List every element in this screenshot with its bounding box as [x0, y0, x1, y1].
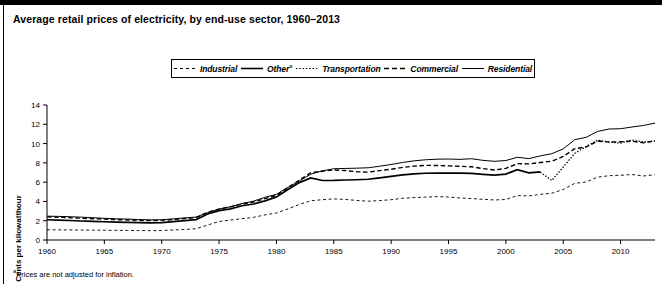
- legend-label-commercial: Commercial: [410, 64, 458, 74]
- legend-swatch-industrial-icon: [174, 65, 196, 72]
- legend-item-residential: Residential: [462, 64, 532, 74]
- y-tick-label: 2: [36, 217, 41, 226]
- legend-swatch-transportation-icon: [296, 65, 318, 72]
- y-tick-label: 4: [36, 197, 41, 206]
- y-tick-label: 14: [31, 101, 40, 110]
- y-tick-label: 12: [31, 120, 40, 129]
- legend-swatch-residential-icon: [462, 65, 484, 72]
- chart-title: Average retail prices of electricity, by…: [13, 13, 340, 25]
- chart-figure: Average retail prices of electricity, by…: [0, 0, 662, 284]
- y-tick-label: 10: [31, 140, 40, 149]
- x-tick-label: 1980: [268, 247, 286, 256]
- legend-label-other: Othera: [267, 63, 292, 74]
- x-tick-label: 1965: [95, 247, 113, 256]
- x-tick-label: 2000: [497, 247, 515, 256]
- legend-item-transportation: Transportation: [296, 64, 380, 74]
- legend-label-industrial: Industrial: [200, 64, 237, 74]
- legend-swatch-commercial-icon: [384, 65, 406, 72]
- x-tick-label: 1970: [153, 247, 171, 256]
- footnote-text: Prices are not adjusted for inflation.: [16, 270, 134, 279]
- y-tick-label: 8: [36, 159, 41, 168]
- x-axis-ticks: 1960196519701975198019851990199520002005…: [38, 240, 630, 256]
- chart-legend: IndustrialOtheraTransportationCommercial…: [171, 59, 535, 78]
- data-series-group: [47, 123, 655, 231]
- plot-svg: 02468101214 1960196519701975198019851990…: [0, 86, 662, 256]
- x-tick-label: 1960: [38, 247, 56, 256]
- legend-item-commercial: Commercial: [384, 64, 458, 74]
- y-tick-label: 0: [36, 236, 41, 245]
- x-tick-label: 1975: [210, 247, 228, 256]
- legend-label-transportation: Transportation: [322, 64, 380, 74]
- x-tick-label: 1985: [325, 247, 343, 256]
- x-tick-label: 2005: [554, 247, 572, 256]
- chart-footnote: aPrices are not adjusted for inflation.: [13, 268, 134, 279]
- series-line-commercial: [47, 141, 655, 221]
- legend-superscript-marker: a: [289, 63, 292, 69]
- y-tick-label: 6: [36, 178, 41, 187]
- plot-area: 02468101214 1960196519701975198019851990…: [0, 86, 662, 256]
- legend-item-industrial: Industrial: [174, 64, 237, 74]
- series-line-transportation: [540, 140, 655, 181]
- x-tick-label: 2010: [612, 247, 630, 256]
- legend-swatch-other-icon: [241, 65, 263, 72]
- legend-item-other: Othera: [241, 63, 292, 74]
- y-axis-ticks: 02468101214: [31, 101, 47, 245]
- x-tick-label: 1995: [440, 247, 458, 256]
- x-tick-label: 1990: [382, 247, 400, 256]
- legend-label-residential: Residential: [488, 64, 532, 74]
- series-line-other: [47, 170, 540, 223]
- header-rule: [0, 0, 662, 5]
